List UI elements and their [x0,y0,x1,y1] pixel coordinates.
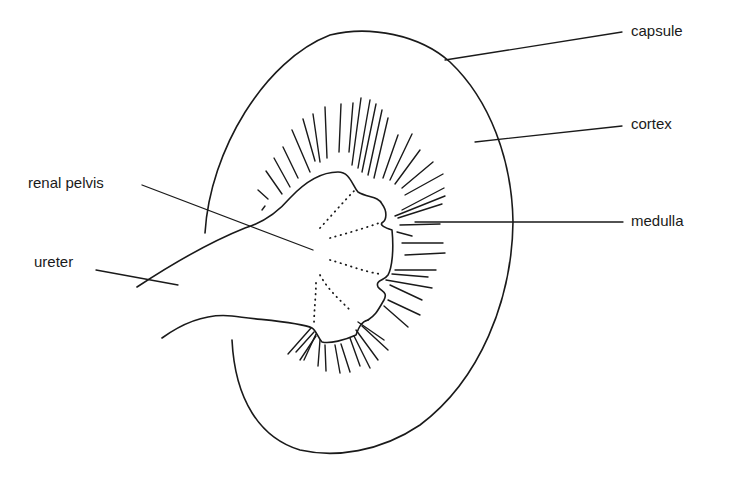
medulla-rays [258,98,445,373]
renal-pelvis-leader-line [142,185,313,250]
capsule-label: capsule [631,23,683,38]
ureter-upper-edge [137,172,393,320]
renal-pelvis-lower-edge [162,316,368,343]
ureter-leader-line [96,270,178,285]
ureter-label: ureter [34,254,73,269]
capsule-leader-line [445,32,622,60]
renal-pelvis-label: renal pelvis [28,175,104,190]
medulla-label: medulla [631,213,684,228]
kidney-diagram: capsule cortex medulla renal pelvis uret… [0,0,730,478]
cortex-label: cortex [631,116,672,131]
calyx-dots [314,190,382,326]
kidney-capsule-outline [205,31,513,453]
kidney-illustration [0,0,730,478]
